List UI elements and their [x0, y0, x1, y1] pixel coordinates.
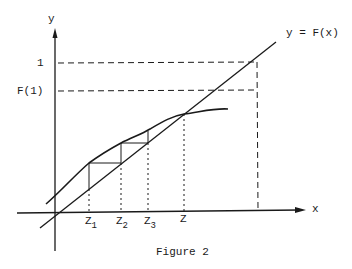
staircase: [89, 131, 148, 189]
y-axis-arrow-icon: [53, 28, 58, 38]
curve: [46, 109, 228, 204]
y-axis-label: y: [48, 14, 55, 25]
x-tick-z1: Z1: [85, 216, 97, 227]
guide-lines: [58, 62, 258, 210]
line-label: y = F(x): [286, 28, 339, 39]
x-tick-z2: Z2: [116, 216, 128, 227]
x-axis-arrow-icon: [295, 207, 306, 213]
y-tick-f1: F(1): [17, 86, 43, 97]
x-axis-label: x: [312, 204, 319, 215]
figure-2-diagram: [0, 0, 352, 269]
x-tick-z3: Z3: [144, 216, 156, 227]
x-tick-z: Z: [180, 214, 187, 225]
y-tick-one: 1: [37, 58, 44, 69]
figure-caption: Figure 2: [156, 247, 209, 258]
straight-line: [40, 42, 276, 228]
